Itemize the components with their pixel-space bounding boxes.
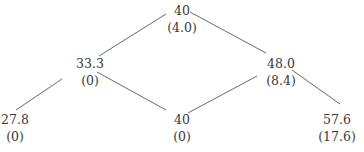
node-sub-value: (8.4) — [251, 72, 311, 89]
node-value: 48.0 — [251, 55, 311, 72]
node-value: 40 — [152, 111, 212, 128]
edge-up-updown — [188, 76, 257, 113]
node-updown: 40 (0) — [152, 111, 212, 145]
node-sub-value: (0) — [60, 72, 120, 89]
node-up: 48.0 (8.4) — [251, 55, 311, 89]
node-value: 27.8 — [0, 111, 45, 128]
node-sub-value: (17.6) — [307, 128, 364, 145]
node-upup: 57.6 (17.6) — [307, 111, 364, 145]
node-sub-value: (4.0) — [152, 19, 212, 36]
node-value: 57.6 — [307, 111, 364, 128]
node-value: 33.3 — [60, 55, 120, 72]
edge-down-downdown — [16, 79, 62, 110]
node-downdown: 27.8 (0) — [0, 111, 45, 145]
node-root: 40 (4.0) — [152, 2, 212, 36]
node-value: 40 — [152, 2, 212, 19]
node-sub-value: (0) — [152, 128, 212, 145]
node-sub-value: (0) — [0, 128, 45, 145]
node-down: 33.3 (0) — [60, 55, 120, 89]
